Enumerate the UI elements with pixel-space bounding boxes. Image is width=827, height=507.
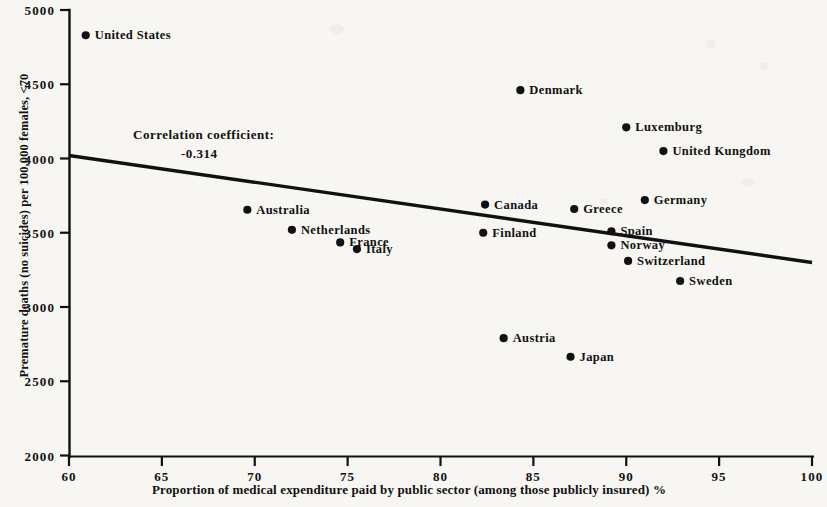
data-point-label: Denmark [529, 84, 583, 97]
y-axis-title: Premature deaths (no suicides) per 100,0… [17, 6, 32, 446]
data-point [566, 353, 574, 361]
data-point [336, 238, 344, 246]
correlation-value: -0.314 [133, 145, 274, 164]
data-points [82, 31, 685, 361]
data-point-label: Spain [620, 225, 653, 238]
data-point [479, 229, 487, 237]
data-point-label: Greece [583, 203, 623, 216]
data-point-label: Norway [620, 239, 665, 252]
data-point [500, 334, 508, 342]
data-point-label: Netherlands [301, 224, 371, 237]
data-point [622, 123, 630, 131]
correlation-annotation: Correlation coefficient: -0.314 [133, 126, 274, 164]
axes [69, 10, 813, 457]
data-point-label: Finland [492, 227, 537, 240]
data-point [676, 277, 684, 285]
data-point-label: Switzerland [637, 255, 705, 268]
data-point [607, 227, 615, 235]
data-point-label: Sweden [689, 275, 732, 288]
data-point-label: United States [95, 29, 171, 42]
data-point-label: Canada [494, 199, 538, 212]
data-point [516, 86, 524, 94]
data-point-label: United Kungdom [672, 145, 770, 158]
data-point [641, 196, 649, 204]
data-point [570, 205, 578, 213]
data-point-label: Austria [513, 332, 556, 345]
data-point [607, 241, 615, 249]
data-point [481, 200, 489, 208]
x-axis-title: Proportion of medical expenditure paid b… [0, 482, 818, 498]
correlation-label: Correlation coefficient: [133, 127, 274, 142]
data-point-label: Germany [654, 194, 707, 207]
data-point [288, 226, 296, 234]
data-point [82, 31, 90, 39]
y-tick-label: 2000 [0, 450, 55, 463]
data-point [659, 147, 667, 155]
data-point [624, 257, 632, 265]
data-point-label: Italy [366, 243, 393, 256]
data-point-label: Luxemburg [635, 121, 702, 134]
trendline [69, 156, 812, 263]
data-point-label: Japan [580, 351, 615, 364]
data-point [243, 206, 251, 214]
data-point-label: Australia [256, 204, 310, 217]
y-tick-marks [60, 10, 69, 456]
